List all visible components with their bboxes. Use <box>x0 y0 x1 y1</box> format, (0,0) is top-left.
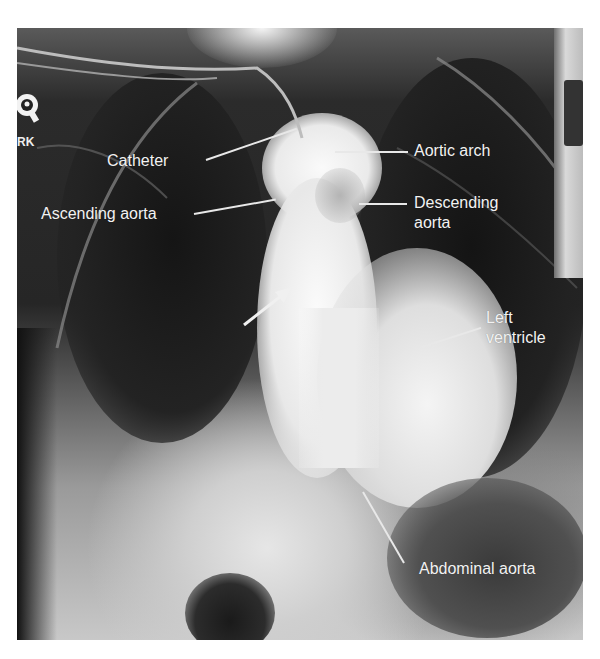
leader-aortic-arch <box>335 151 408 153</box>
label-left-ventricle: Left ventricle <box>486 308 546 348</box>
label-catheter: Catheter <box>107 151 168 171</box>
label-descending-aorta: Descending aorta <box>414 193 499 233</box>
radiograph-figure: RK Catheter Aortic arch Ascending aorta … <box>17 28 583 640</box>
label-ascending-aorta: Ascending aorta <box>41 204 157 224</box>
leader-descending-aorta <box>359 203 407 205</box>
label-abdominal-aorta: Abdominal aorta <box>419 559 536 579</box>
label-aortic-arch: Aortic arch <box>414 141 490 161</box>
